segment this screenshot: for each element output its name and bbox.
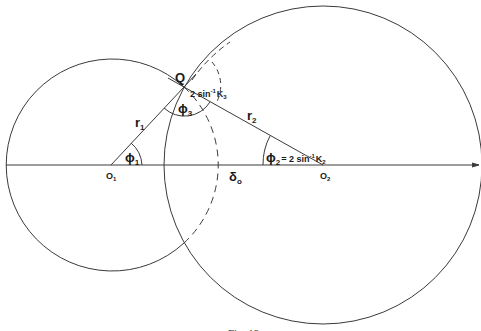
parallel-dashed-arc bbox=[192, 42, 230, 80]
r1-extension bbox=[184, 74, 196, 87]
phi2-label: ϕ2= 2 sin-1K2 bbox=[266, 150, 326, 167]
k3-label: 2 sin-1K3 bbox=[190, 88, 227, 100]
phi3-label: ϕ3 bbox=[178, 101, 193, 118]
delta0-label: δo bbox=[229, 169, 242, 186]
point-label-o1: O1 bbox=[106, 171, 117, 182]
figure-caption: Fig. 13 bbox=[228, 327, 260, 331]
radius-r1 bbox=[111, 87, 184, 165]
point-label-q: Q bbox=[175, 70, 185, 85]
r1-label: r1 bbox=[135, 115, 145, 132]
point-label-o2: O2 bbox=[320, 171, 331, 182]
phi1-label: ϕ1 bbox=[125, 150, 140, 167]
r2-label: r2 bbox=[247, 108, 257, 125]
axis-arrow-icon bbox=[472, 163, 479, 167]
two-circles-diagram: Q 2 sin-1K3 ϕ3 r1 r2 ϕ1 ϕ2= 2 sin-1K2 O1… bbox=[0, 0, 481, 331]
